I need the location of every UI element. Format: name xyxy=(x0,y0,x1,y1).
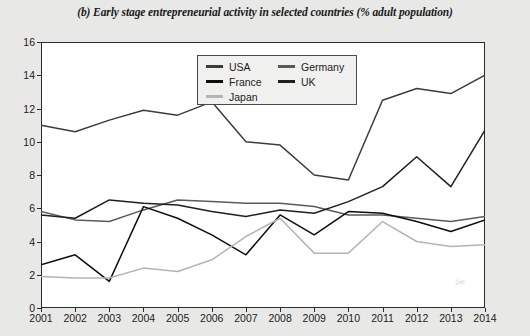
y-axis-tick-mark xyxy=(37,275,42,276)
y-axis-tick-mark xyxy=(37,208,42,209)
x-axis-tick-mark xyxy=(75,308,76,312)
legend-swatch-france xyxy=(206,80,223,83)
x-axis-tick-label: 2011 xyxy=(371,312,394,324)
x-axis-tick-label: 2001 xyxy=(29,312,52,324)
legend-label-uk: UK xyxy=(301,76,316,88)
x-axis-tick-mark xyxy=(280,308,281,312)
x-axis-tick-mark xyxy=(143,308,144,312)
x-axis-tick-label: 2007 xyxy=(234,312,257,324)
x-axis-tick-label: 2008 xyxy=(268,312,291,324)
y-axis-tick-label: 14 xyxy=(9,69,35,81)
x-axis-tick-mark xyxy=(178,308,179,312)
x-axis-tick-mark xyxy=(451,308,452,312)
y-axis-tick-mark xyxy=(37,42,42,43)
y-axis-tick-label: 10 xyxy=(9,136,35,148)
y-axis-tick-label: 2 xyxy=(9,269,35,281)
y-axis-tick-label: 4 xyxy=(9,236,35,248)
legend-item-uk[interactable]: UK xyxy=(278,74,344,89)
x-axis-tick-mark xyxy=(383,308,384,312)
y-axis-tick-mark xyxy=(37,242,42,243)
legend-swatch-japan xyxy=(206,95,223,98)
legend-swatch-germany xyxy=(278,65,295,68)
x-axis-tick-mark xyxy=(246,308,247,312)
x-axis-tick-label: 2006 xyxy=(200,312,223,324)
legend-column-right: GermanyUK xyxy=(278,59,344,89)
y-axis-tick-label: 16 xyxy=(9,36,35,48)
y-axis-tick-label: 8 xyxy=(9,169,35,181)
x-axis-tick-label: 2002 xyxy=(63,312,86,324)
legend-item-germany[interactable]: Germany xyxy=(278,59,344,74)
x-axis-tick-label: 2013 xyxy=(439,312,462,324)
x-axis-tick-label: 2004 xyxy=(132,312,155,324)
x-axis-tick-mark xyxy=(41,308,42,312)
y-axis-tick-mark xyxy=(37,142,42,143)
legend-label-germany: Germany xyxy=(301,61,344,73)
x-axis-tick-mark xyxy=(109,308,110,312)
chart-title: (b) Early stage entrepreneurial activity… xyxy=(0,6,530,18)
y-axis-tick-label: 6 xyxy=(9,202,35,214)
chart-legend: USAFranceJapan GermanyUK xyxy=(197,55,357,105)
x-axis-tick-mark xyxy=(485,308,486,312)
legend-swatch-uk xyxy=(278,80,295,83)
legend-item-france[interactable]: France xyxy=(206,74,262,89)
legend-label-usa: USA xyxy=(229,61,251,73)
legend-column-left: USAFranceJapan xyxy=(206,59,262,104)
y-axis-tick-mark xyxy=(37,75,42,76)
x-axis-tick-label: 2010 xyxy=(337,312,360,324)
x-axis-tick-label: 2005 xyxy=(166,312,189,324)
x-axis-tick-mark xyxy=(212,308,213,312)
x-axis-tick-label: 2014 xyxy=(473,312,496,324)
legend-label-japan: Japan xyxy=(229,91,258,103)
y-axis-tick-mark xyxy=(37,109,42,110)
x-axis-tick-mark xyxy=(348,308,349,312)
legend-label-france: France xyxy=(229,76,262,88)
y-axis-tick-label: 12 xyxy=(9,103,35,115)
series-line-japan xyxy=(41,218,485,278)
x-axis-tick-label: 2009 xyxy=(303,312,326,324)
x-axis-tick-label: 2012 xyxy=(405,312,428,324)
x-axis-tick-mark xyxy=(417,308,418,312)
legend-item-usa[interactable]: USA xyxy=(206,59,262,74)
legend-swatch-usa xyxy=(206,65,223,68)
x-axis-tick-label: 2003 xyxy=(98,312,121,324)
y-axis-tick-mark xyxy=(37,175,42,176)
x-axis-tick-mark xyxy=(314,308,315,312)
series-line-germany xyxy=(41,200,485,222)
legend-item-japan[interactable]: Japan xyxy=(206,89,262,104)
